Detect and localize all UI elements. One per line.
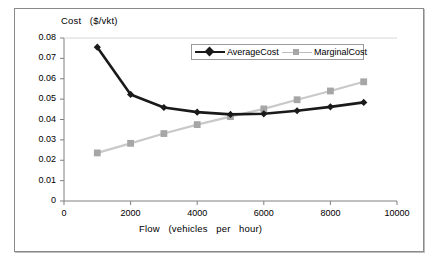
x-axis-tick-label: 4000 (175, 208, 219, 218)
data-point-averagecost[interactable] (160, 104, 167, 111)
y-axis-tick-label: 0.03 (20, 134, 56, 144)
y-axis-tick-label: 0.01 (20, 175, 56, 185)
data-point-marginalcost[interactable] (194, 121, 201, 128)
data-point-averagecost[interactable] (327, 103, 334, 110)
y-axis-tick-label: 0.06 (20, 73, 56, 83)
data-point-marginalcost[interactable] (161, 130, 168, 137)
y-axis-tick-label: 0.07 (20, 52, 56, 62)
data-point-averagecost[interactable] (194, 109, 201, 116)
chart-legend: AverageCost MarginalCost (191, 44, 364, 60)
data-point-marginalcost[interactable] (127, 140, 134, 147)
y-axis-title: Cost ($/vkt) (61, 15, 118, 26)
data-point-marginalcost[interactable] (294, 96, 301, 103)
data-point-averagecost[interactable] (294, 107, 301, 114)
data-point-marginalcost[interactable] (94, 150, 101, 157)
y-axis-tick-label: 0 (20, 195, 56, 205)
legend-item-average-cost[interactable]: AverageCost (195, 45, 279, 59)
y-axis-tick-label: 0.05 (20, 93, 56, 103)
data-point-marginalcost[interactable] (360, 78, 367, 85)
y-axis-tick-label: 0.04 (20, 114, 56, 124)
legend-label-marginal-cost: MarginalCost (314, 47, 367, 57)
x-axis-tick-label: 8000 (308, 208, 352, 218)
data-point-marginalcost[interactable] (327, 88, 334, 95)
x-axis-title: Flow (vehicles per hour) (139, 223, 262, 234)
x-axis-tick-label: 0 (42, 208, 86, 218)
chart-area: Cost ($/vkt) Flow (vehicles per hour) Av… (15, 9, 425, 253)
x-axis-tick-label: 6000 (242, 208, 286, 218)
y-axis-tick-label: 0.02 (20, 154, 56, 164)
chart-figure-frame: Cost ($/vkt) Flow (vehicles per hour) Av… (14, 8, 424, 252)
y-axis-tick-label: 0.08 (20, 32, 56, 42)
legend-swatch-average-cost (195, 46, 225, 58)
legend-label-average-cost: AverageCost (227, 47, 279, 57)
x-axis-tick-label: 2000 (109, 208, 153, 218)
data-point-averagecost[interactable] (360, 99, 367, 106)
x-axis-tick-label: 10000 (375, 208, 419, 218)
legend-item-marginal-cost[interactable]: MarginalCost (282, 45, 367, 59)
legend-swatch-marginal-cost (282, 46, 312, 58)
